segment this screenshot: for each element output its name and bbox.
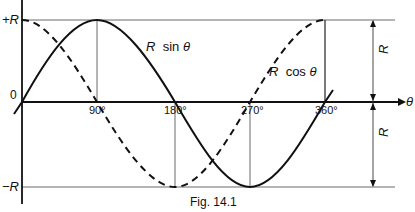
tick-label-360: 360° [315,104,338,116]
minus-r-label: −R [2,179,19,194]
tick-label-270: 270° [241,104,264,116]
arrow-up-mid-icon [370,103,376,110]
upper-dimension-label: R [376,45,391,54]
x-axis-arrow-icon [398,98,406,106]
sine-cosine-diagram [0,0,415,212]
theta-axis-label: θ [406,94,413,109]
lower-dimension-label: R [376,128,391,137]
origin-label: 0 [10,88,17,102]
tick-label-90: 90° [89,104,106,116]
arrow-down-bottom-icon [370,180,376,187]
plus-r-label: +R [2,12,19,27]
tick-label-180: 180° [164,104,187,116]
cosine-curve-label: R cos θ [269,64,317,79]
figure-caption: Fig. 14.1 [190,195,237,209]
arrow-down-mid-icon [370,94,376,101]
arrow-up-top-icon [370,20,376,27]
sine-curve-label: R sin θ [146,39,190,54]
